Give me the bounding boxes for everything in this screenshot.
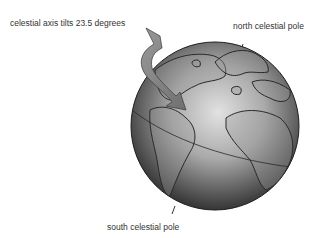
tilt-label: celestial axis tilts 23.5 degrees [10,18,125,28]
globe-diagram [0,0,332,238]
south-pole-label: south celestial pole [107,222,179,232]
south-pole-pointer [172,206,175,214]
north-pole-label: north celestial pole [233,21,304,31]
globe [131,42,299,210]
